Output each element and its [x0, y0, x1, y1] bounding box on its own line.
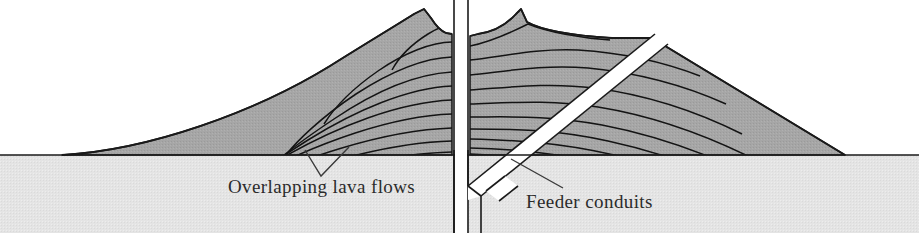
overlapping-lava-flows-label: Overlapping lava flows	[228, 176, 415, 197]
central-conduit-ground-cut	[455, 152, 467, 159]
central-feeder-conduit	[454, 0, 468, 233]
feeder-conduits-label: Feeder conduits	[526, 191, 653, 212]
volcano-cross-section-figure: Overlapping lava flows Feeder conduits	[0, 0, 919, 233]
cross-section-canvas: Overlapping lava flows Feeder conduits	[0, 0, 919, 233]
central-conduit-fill	[454, 0, 468, 233]
